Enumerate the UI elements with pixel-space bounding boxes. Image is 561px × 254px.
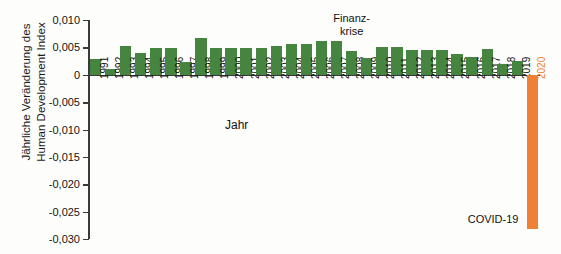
bar-slot[interactable]: 1993: [118, 20, 133, 239]
y-axis-tick-label: 0,005: [52, 41, 80, 53]
annotation-covid: COVID-19: [456, 213, 518, 226]
y-axis-title-line-1: Jährliche Veränderung des: [19, 24, 34, 161]
y-axis-tick-label: 0,010: [52, 14, 80, 26]
y-axis-tick-label: -0,025: [49, 206, 80, 218]
bar-slot[interactable]: 2018: [495, 20, 510, 239]
annotation-finanzkrise-line-1: Finanz-: [320, 12, 384, 25]
plot-area: 0,0100,0050-0,005-0,010-0,015-0,020-0,02…: [88, 20, 540, 239]
bar-slot[interactable]: 1992: [103, 20, 118, 239]
bar-slot[interactable]: 2004: [284, 20, 299, 239]
y-axis-tick-label: -0,010: [49, 124, 80, 136]
bar-slot[interactable]: 1998: [193, 20, 208, 239]
bar-slot[interactable]: 2011: [389, 20, 404, 239]
bar-slot[interactable]: 2009: [359, 20, 374, 239]
bar-slot[interactable]: 2013: [419, 20, 434, 239]
y-axis-tick-label: -0,030: [49, 233, 80, 245]
bar-slot[interactable]: 2010: [374, 20, 389, 239]
annotation-finanzkrise-line-2: krise: [320, 25, 384, 38]
chart-figure: Jährliche Veränderung des Human Developm…: [0, 0, 561, 254]
bar-slot[interactable]: 2015: [450, 20, 465, 239]
bar-slot[interactable]: 1991: [88, 20, 103, 239]
bar-slot[interactable]: 2017: [480, 20, 495, 239]
y-axis-title: Jährliche Veränderung des Human Developm…: [16, 0, 52, 210]
bar-slot[interactable]: 2008: [344, 20, 359, 239]
bar-2020[interactable]: [527, 75, 538, 229]
bar-slot[interactable]: 2012: [404, 20, 419, 239]
bar-slot[interactable]: 2019: [510, 20, 525, 239]
x-axis-title: Jahr: [225, 118, 248, 132]
y-axis-tick: [83, 239, 89, 240]
bar-slot[interactable]: 2002: [254, 20, 269, 239]
bar-slot[interactable]: 2020: [525, 20, 540, 239]
y-axis-title-line-2: Human Development Index: [34, 22, 49, 161]
bar-slot[interactable]: 2006: [314, 20, 329, 239]
y-axis-tick-label: 0: [74, 69, 80, 81]
bar-slot[interactable]: 2005: [299, 20, 314, 239]
bar-slot[interactable]: 2007: [329, 20, 344, 239]
bar-slot[interactable]: 1997: [178, 20, 193, 239]
bar-slot[interactable]: 1994: [133, 20, 148, 239]
x-axis-label-2020: 2020: [536, 57, 547, 79]
bar-slot[interactable]: 2014: [435, 20, 450, 239]
bar-slot[interactable]: 1995: [148, 20, 163, 239]
bar-slot[interactable]: 1999: [209, 20, 224, 239]
annotation-finanzkrise: Finanz- krise: [320, 12, 384, 37]
bar-slot[interactable]: 2016: [465, 20, 480, 239]
y-axis-tick-label: -0,020: [49, 178, 80, 190]
bar-series: 1991199219931994199519961997199819992000…: [88, 20, 540, 239]
bar-slot[interactable]: 2003: [269, 20, 284, 239]
y-axis-tick-label: -0,005: [49, 96, 80, 108]
y-axis-tick-label: -0,015: [49, 151, 80, 163]
bar-slot[interactable]: 1996: [163, 20, 178, 239]
